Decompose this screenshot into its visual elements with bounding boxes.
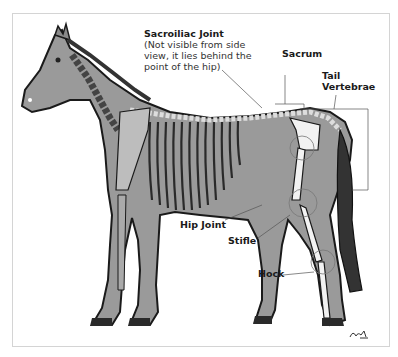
sacroiliac-note-line1: (Not visible from side: [144, 39, 245, 50]
tail-vertebrae-line2: Vertebrae: [322, 81, 375, 92]
sacroiliac-note-line3: point of the hip): [144, 61, 220, 72]
sacroiliac-joint-title: Sacroiliac Joint: [144, 28, 224, 39]
sacroiliac-note-line2: view, it lies behind the: [144, 50, 252, 61]
hip-joint-text: Hip Joint: [180, 219, 226, 230]
stifle-label: Stifle: [228, 235, 256, 246]
tail-vertebrae-line1: Tail: [322, 70, 340, 81]
sacroiliac-joint-label: Sacroiliac Joint (Not visible from side …: [144, 28, 252, 72]
stifle-text: Stifle: [228, 235, 256, 246]
sacrum-text: Sacrum: [282, 48, 322, 59]
front-leg-bones: [118, 195, 126, 290]
hip-joint-label: Hip Joint: [180, 219, 226, 230]
artist-signature-icon: [348, 328, 370, 340]
hooves: [90, 316, 344, 326]
sacrum-label: Sacrum: [282, 48, 322, 59]
hock-label: Hock: [258, 268, 284, 279]
nostril: [28, 98, 32, 102]
tail-vertebrae-label: Tail Vertebrae: [322, 70, 375, 92]
hock-text: Hock: [258, 268, 284, 279]
eye: [56, 58, 61, 63]
